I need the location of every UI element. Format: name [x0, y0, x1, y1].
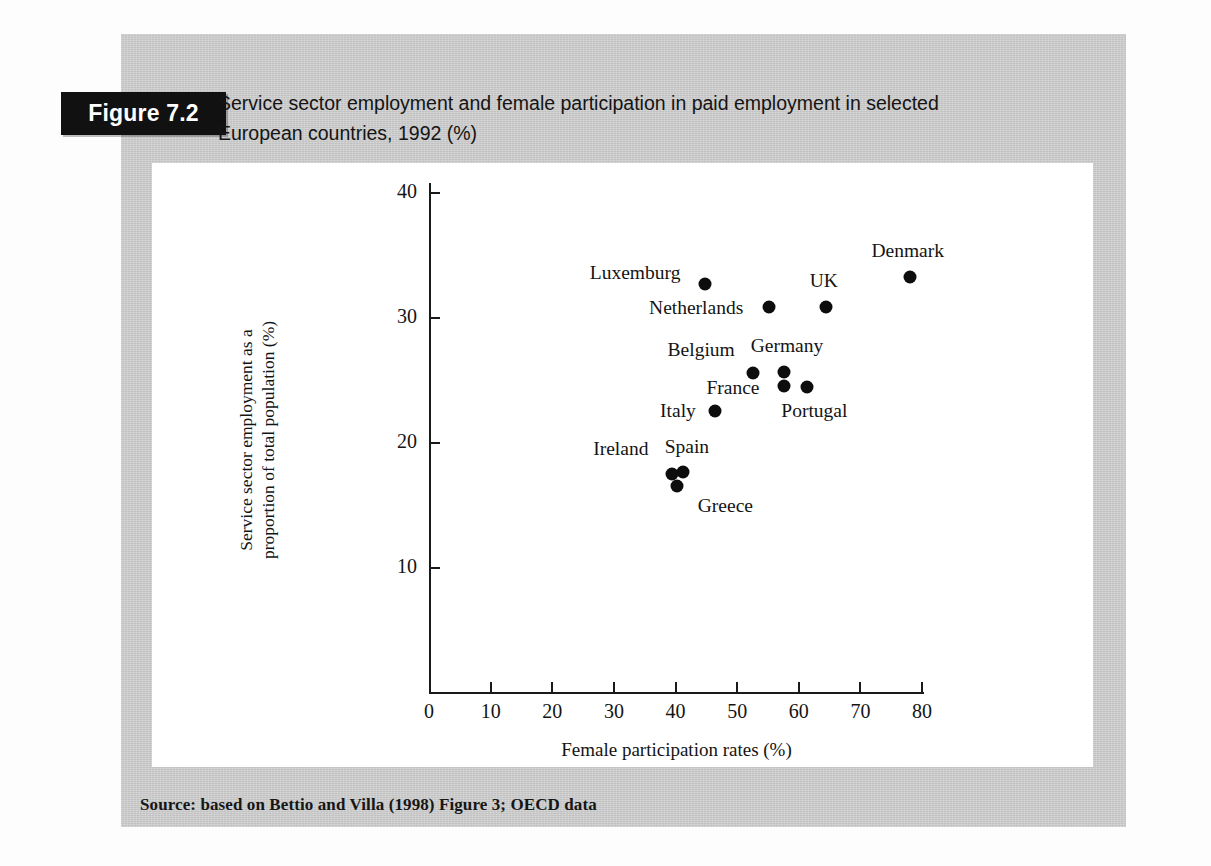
figure-number-tab: Figure 7.2: [61, 92, 226, 135]
x-axis-tick: [921, 682, 923, 693]
y-axis-tick: [431, 567, 440, 569]
data-point-label-belgium: Belgium: [668, 339, 735, 361]
x-axis-tick-label: 80: [902, 700, 942, 723]
data-point-label-uk: UK: [810, 270, 838, 292]
x-axis-tick: [613, 682, 615, 693]
data-point-portugal: [801, 380, 814, 393]
data-point-label-luxemburg: Luxemburg: [590, 262, 681, 284]
scatter-chart: Service sector employment as a proportio…: [152, 163, 1093, 767]
x-axis-tick: [736, 682, 738, 693]
x-axis-tick-label: 20: [532, 700, 572, 723]
data-point-france: [777, 379, 790, 392]
x-axis-tick: [551, 682, 553, 693]
x-axis-tick-label: 60: [779, 700, 819, 723]
plot-card: Service sector employment as a proportio…: [152, 163, 1093, 767]
data-point-luxemburg: [699, 278, 712, 291]
data-point-uk: [819, 300, 832, 313]
x-axis-line: [429, 692, 924, 694]
x-axis-tick-label: 40: [656, 700, 696, 723]
data-point-label-france: France: [706, 377, 759, 399]
data-point-label-greece: Greece: [698, 495, 753, 517]
y-axis-title-line-1: Service sector employment as a: [236, 329, 256, 551]
caption-line-1: Service sector employment and female par…: [218, 88, 1078, 118]
data-point-label-germany: Germany: [751, 335, 824, 357]
data-point-label-portugal: Portugal: [781, 400, 847, 422]
x-axis-tick: [798, 682, 800, 693]
y-axis-tick: [431, 192, 440, 194]
data-point-greece: [671, 479, 684, 492]
y-axis-tick-label: 10: [377, 555, 417, 578]
x-axis-tick-label: 10: [471, 700, 511, 723]
figure-caption: Service sector employment and female par…: [218, 88, 1078, 148]
y-axis-line: [429, 183, 431, 694]
data-point-germany: [777, 365, 790, 378]
y-axis-tick-label: 20: [377, 430, 417, 453]
caption-line-2: European countries, 1992 (%): [218, 118, 1078, 148]
x-axis-tick-label: 30: [594, 700, 634, 723]
data-point-label-denmark: Denmark: [871, 240, 944, 262]
figure-page: Figure 7.2 Service sector employment and…: [0, 0, 1211, 866]
figure-number-label: Figure 7.2: [88, 100, 199, 127]
x-axis-title: Female participation rates (%): [429, 739, 924, 761]
y-axis-tick: [431, 317, 440, 319]
data-point-italy: [708, 404, 721, 417]
data-point-label-spain: Spain: [665, 436, 709, 458]
data-point-spain: [676, 465, 689, 478]
x-axis-tick-label: 0: [409, 700, 449, 723]
data-point-label-netherlands: Netherlands: [649, 297, 743, 319]
x-axis-tick-label: 70: [840, 700, 880, 723]
y-axis-tick: [431, 442, 440, 444]
y-axis-tick-label: 40: [377, 180, 417, 203]
figure-source: Source: based on Bettio and Villa (1998)…: [140, 795, 1040, 815]
x-axis-tick: [859, 682, 861, 693]
data-point-label-ireland: Ireland: [593, 438, 648, 460]
y-axis-title-line-2: proportion of total population (%): [258, 321, 278, 559]
data-point-denmark: [903, 270, 916, 283]
data-point-netherlands: [763, 300, 776, 313]
x-axis-tick-label: 50: [717, 700, 757, 723]
x-axis-tick: [675, 682, 677, 693]
data-point-label-italy: Italy: [660, 400, 696, 422]
y-axis-tick-label: 30: [377, 305, 417, 328]
y-axis-title: Service sector employment as a proportio…: [235, 275, 279, 605]
x-axis-tick: [490, 682, 492, 693]
